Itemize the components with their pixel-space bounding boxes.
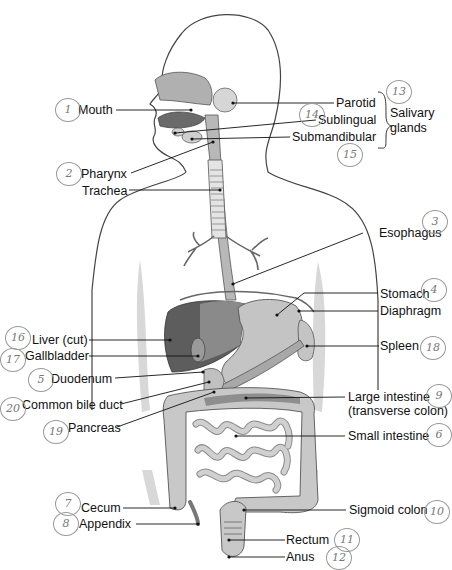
number-gallbladder: 17 xyxy=(0,348,26,372)
label-small-intestine: Small intestine xyxy=(348,429,429,443)
number-submandibular: 15 xyxy=(337,143,363,167)
label-appendix: Appendix xyxy=(79,517,131,531)
number-liver: 16 xyxy=(5,326,31,350)
label-glands: glands xyxy=(390,121,427,135)
label-anus: Anus xyxy=(286,550,315,564)
label-diaphragm: Diaphragm xyxy=(380,304,441,318)
anatomy-illustration xyxy=(0,0,452,570)
label-common-bile-duct: Common bile duct xyxy=(22,398,123,412)
label-cecum: Cecum xyxy=(81,501,121,515)
number-anus: 12 xyxy=(326,546,352,570)
label-sublingual: Sublingual xyxy=(318,113,376,127)
number-sublingual: 14 xyxy=(299,103,325,127)
number-parotid: 13 xyxy=(386,80,412,104)
label-sigmoid-colon: Sigmoid colon xyxy=(349,503,428,517)
label-pancreas: Pancreas xyxy=(68,421,121,435)
number-appendix: 8 xyxy=(53,512,79,536)
label-rectum: Rectum xyxy=(286,533,329,547)
number-duodenum: 5 xyxy=(28,368,54,392)
number-pancreas: 19 xyxy=(43,420,69,444)
digestive-system-diagram: Mouth Pharynx Trachea Parotid Sublingual… xyxy=(0,0,452,570)
label-parotid: Parotid xyxy=(336,96,376,110)
number-spleen: 18 xyxy=(420,336,446,360)
number-sigmoid-colon: 10 xyxy=(424,500,450,524)
number-pharynx: 2 xyxy=(56,162,82,186)
number-esophagus: 3 xyxy=(422,210,448,234)
number-mouth: 1 xyxy=(55,98,81,122)
label-gallbladder: Gallbladder xyxy=(25,349,89,363)
label-large-intestine: Large intestine xyxy=(348,390,430,404)
label-submandibular: Submandibular xyxy=(292,130,376,144)
label-liver: Liver (cut) xyxy=(32,333,88,347)
label-salivary: Salivary xyxy=(390,106,434,120)
number-stomach: 4 xyxy=(421,278,447,302)
body-outline xyxy=(92,15,378,410)
label-pharynx: Pharynx xyxy=(81,167,127,181)
label-trachea: Trachea xyxy=(82,184,127,198)
label-spleen: Spleen xyxy=(380,339,419,353)
label-duodenum: Duodenum xyxy=(51,372,112,386)
label-mouth: Mouth xyxy=(78,103,113,117)
number-common-bile-duct: 20 xyxy=(0,397,26,421)
number-large-intestine: 9 xyxy=(426,384,452,408)
number-small-intestine: 6 xyxy=(426,423,452,447)
